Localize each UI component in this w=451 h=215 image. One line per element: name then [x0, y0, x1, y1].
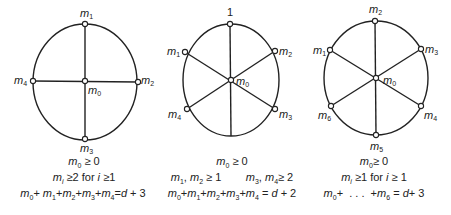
condition-1-2: mi ≥2 for i ≥1: [53, 172, 116, 185]
node-m4: [418, 103, 423, 108]
label-m0: m0: [383, 75, 396, 87]
node-m3: [272, 106, 277, 111]
label-m0: m0: [88, 85, 101, 97]
node-m1: [327, 47, 332, 52]
node-m4: [30, 78, 35, 83]
label-m3: m3: [80, 143, 93, 155]
condition-2-2: m1, m2 ≥ 1 m3, m4≥ 2: [171, 172, 294, 185]
label-m1: m1: [80, 8, 93, 20]
node-m2: [272, 48, 277, 53]
label-m2: m2: [369, 4, 382, 16]
node-m2: [135, 79, 140, 84]
label-m4: m4: [424, 110, 437, 122]
label-m1: m1: [313, 45, 326, 57]
node-m2: [372, 18, 377, 23]
node-m3: [82, 136, 87, 141]
node-m5: [373, 132, 378, 137]
node-m6: [328, 103, 333, 108]
label-m2: m2: [141, 75, 154, 87]
label-1: 1: [227, 7, 233, 18]
label-m5: m5: [370, 141, 383, 153]
node-m1: [82, 21, 87, 26]
label-m3: m3: [425, 44, 438, 56]
node-1: [227, 21, 232, 26]
condition-1-3: m0+ m1+m2+m3+m4=d + 3: [20, 188, 145, 201]
condition-2-3: m0+m1+m2+m3+m4 = d + 2: [168, 188, 296, 201]
condition-3-2: mi ≥1 for i ≥ 1: [341, 172, 407, 185]
node-m0: [228, 77, 233, 82]
node-m0: [82, 78, 87, 83]
condition-3-3: m0+ . . . +m6 = d+ 3: [324, 188, 425, 201]
label-m0: m0: [236, 76, 249, 88]
node-m3: [418, 46, 423, 51]
node-m0: [373, 75, 378, 80]
label-m3: m3: [279, 109, 292, 121]
condition-3-1: m0≥ 0: [360, 156, 388, 169]
label-m6: m6: [318, 110, 331, 122]
condition-1-1: m0 ≥ 0: [68, 156, 99, 169]
condition-2-1: m0 ≥ 0: [216, 156, 247, 169]
label-m1: m1: [167, 46, 180, 58]
label-m4: m4: [168, 109, 181, 121]
label-m4: m4: [14, 75, 27, 87]
node-m4: [184, 106, 189, 111]
label-m2: m2: [279, 46, 292, 58]
node-m1: [182, 49, 187, 54]
